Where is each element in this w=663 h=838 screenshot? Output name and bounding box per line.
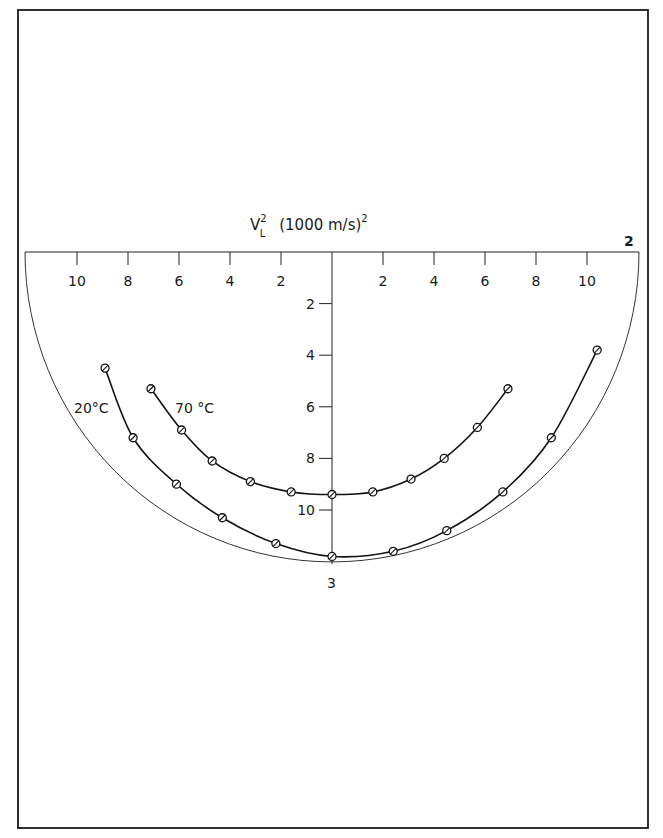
data-point-20c-8 (499, 488, 507, 496)
data-point-20c-1 (129, 434, 137, 442)
title-unit-superscript: 2 (361, 213, 367, 224)
page-frame (18, 10, 648, 828)
data-point-70c-2 (208, 457, 216, 465)
data-point-70c-4 (287, 488, 295, 496)
data-point-20c-0 (101, 364, 109, 372)
y-tick-label-2: 2 (306, 296, 315, 312)
x-tick-label-right-10: 10 (578, 273, 596, 289)
data-point-20c-4 (272, 540, 280, 548)
data-point-70c-0 (147, 385, 155, 393)
series-label-20c: 20°C (74, 400, 109, 416)
data-point-70c-3 (246, 478, 254, 486)
data-point-70c-9 (473, 423, 481, 431)
data-point-20c-10 (593, 346, 601, 354)
data-point-20c-7 (443, 527, 451, 535)
series-line-20c (105, 350, 597, 557)
x-tick-label-right-2: 2 (379, 273, 388, 289)
x-tick-label-left-10: 10 (68, 273, 86, 289)
title-unit: (1000 m/s) (279, 216, 361, 234)
data-point-70c-1 (178, 426, 186, 434)
x-tick-label-left-6: 6 (175, 273, 184, 289)
chart: V2L(1000 m/s)2 2 3 108642246810 246810 2… (0, 0, 663, 838)
x-tick-label-left-4: 4 (226, 273, 235, 289)
bottom-label: 3 (327, 575, 336, 591)
corner-label: 2 (624, 233, 634, 249)
data-point-70c-5 (328, 491, 336, 499)
data-point-20c-9 (547, 434, 555, 442)
series-curves (101, 346, 601, 560)
data-point-70c-8 (440, 454, 448, 462)
data-point-20c-3 (218, 514, 226, 522)
axis-title: V2L(1000 m/s)2 (250, 213, 368, 239)
y-tick-label-8: 8 (306, 450, 315, 466)
y-ticks: 246810 (297, 296, 332, 518)
x-tick-label-left-2: 2 (277, 273, 286, 289)
y-tick-label-4: 4 (306, 347, 315, 363)
data-point-70c-7 (407, 475, 415, 483)
title-subscript: L (260, 228, 266, 239)
y-tick-label-6: 6 (306, 399, 315, 415)
x-tick-label-right-6: 6 (481, 273, 490, 289)
data-point-70c-6 (369, 488, 377, 496)
title-superscript: 2 (260, 213, 266, 224)
x-tick-label-right-8: 8 (532, 273, 541, 289)
y-tick-label-10: 10 (297, 502, 315, 518)
data-point-20c-5 (328, 552, 336, 560)
series-label-70c: 70 °C (175, 400, 214, 416)
data-point-20c-6 (389, 547, 397, 555)
data-point-20c-2 (172, 480, 180, 488)
data-point-70c-10 (504, 385, 512, 393)
x-tick-label-left-8: 8 (124, 273, 133, 289)
x-tick-label-right-4: 4 (430, 273, 439, 289)
